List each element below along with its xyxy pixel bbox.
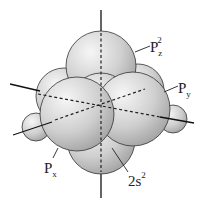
orbital-diagram: Pz2 Py Px 2s2	[0, 0, 204, 205]
label-py: Py	[178, 80, 191, 99]
label-pz: Pz2	[150, 35, 162, 58]
label-px: Px	[44, 160, 57, 179]
label-2s: 2s2	[128, 170, 146, 189]
px-lobe	[40, 77, 114, 151]
y-axis-left	[10, 84, 40, 91]
